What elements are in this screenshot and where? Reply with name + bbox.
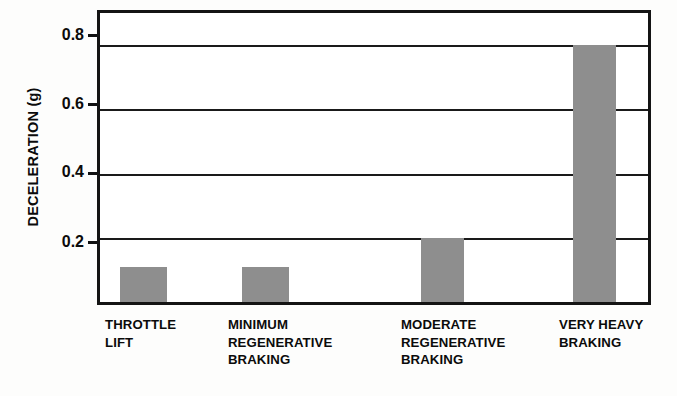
- x-label-line: BRAKING: [559, 334, 643, 352]
- x-label-line: REGENERATIVE: [228, 334, 332, 352]
- y-tick-label-0.6: 0.6: [36, 96, 84, 112]
- x-label-line: LIFT: [105, 334, 176, 352]
- gridline-0.4: [100, 174, 648, 176]
- x-label-minimum-regenerative-braking: MINIMUM REGENERATIVE BRAKING: [228, 316, 332, 369]
- bar-moderate-regenerative-braking: [421, 238, 464, 302]
- x-label-moderate-regenerative-braking: MODERATE REGENERATIVE BRAKING: [401, 316, 505, 369]
- bar-very-heavy-braking: [573, 45, 616, 302]
- bar-chart: DECELERATION (g) 0.8 0.6 0.4 0.2 THROTTL…: [0, 0, 677, 396]
- gridline-0.6: [100, 109, 648, 111]
- x-axis-category-labels: THROTTLE LIFT MINIMUM REGENERATIVE BRAKI…: [97, 316, 677, 392]
- x-label-throttle-lift: THROTTLE LIFT: [105, 316, 176, 351]
- y-tick-label-0.8: 0.8: [36, 27, 84, 43]
- gridline-0.2: [100, 238, 648, 240]
- bar-minimum-regenerative-braking: [242, 267, 289, 302]
- bar-throttle-lift: [120, 267, 167, 302]
- x-label-line: VERY HEAVY: [559, 316, 643, 334]
- plot-area: [97, 10, 651, 305]
- gridline-0.8: [100, 45, 648, 47]
- x-label-very-heavy-braking: VERY HEAVY BRAKING: [559, 316, 643, 351]
- x-label-line: BRAKING: [401, 351, 505, 369]
- x-label-line: THROTTLE: [105, 316, 176, 334]
- x-label-line: MODERATE: [401, 316, 505, 334]
- x-label-line: REGENERATIVE: [401, 334, 505, 352]
- x-label-line: BRAKING: [228, 351, 332, 369]
- x-label-line: MINIMUM: [228, 316, 332, 334]
- y-tick-label-0.2: 0.2: [36, 234, 84, 250]
- y-axis-tick-labels: 0.8 0.6 0.4 0.2: [36, 0, 84, 396]
- y-tick-label-0.4: 0.4: [36, 164, 84, 180]
